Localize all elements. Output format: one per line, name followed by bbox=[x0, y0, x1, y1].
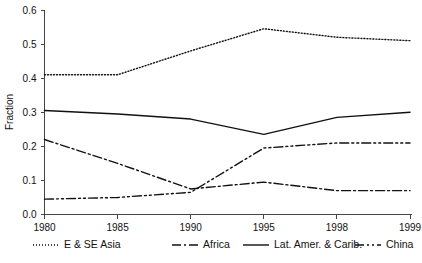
x-tick-label: 1990 bbox=[180, 222, 203, 233]
x-tick-label: 1999 bbox=[399, 222, 422, 233]
series-line-0 bbox=[45, 29, 411, 75]
x-tick-label: 1980 bbox=[33, 222, 56, 233]
x-tick-label: 1995 bbox=[253, 222, 276, 233]
y-tick-label: 0.3 bbox=[23, 107, 37, 118]
chart-container: 0.00.10.20.30.40.50.6 Fraction 198019851… bbox=[0, 0, 422, 263]
legend-label-2: Lat. Amer. & Carib. bbox=[274, 238, 362, 250]
y-tick-label: 0.4 bbox=[23, 73, 37, 84]
line-chart: 0.00.10.20.30.40.50.6 Fraction 198019851… bbox=[0, 0, 422, 263]
y-tick-label: 0.0 bbox=[23, 209, 37, 220]
y-tick-label: 0.6 bbox=[23, 5, 37, 16]
y-axis-title: Fraction bbox=[4, 94, 15, 130]
y-axis-ticks: 0.00.10.20.30.40.50.6 bbox=[23, 5, 45, 221]
x-tick-label: 1998 bbox=[326, 222, 349, 233]
series-line-2 bbox=[45, 111, 411, 135]
y-axis: 0.00.10.20.30.40.50.6 Fraction bbox=[4, 5, 45, 221]
x-tick-label: 1985 bbox=[106, 222, 129, 233]
y-tick-label: 0.5 bbox=[23, 39, 37, 50]
y-tick-label: 0.1 bbox=[23, 175, 37, 186]
x-axis-ticks: 198019851990199519981999 bbox=[33, 215, 421, 233]
chart-legend: E & SE AsiaAfricaLat. Amer. & Carib.Chin… bbox=[33, 238, 414, 250]
legend-label-0: E & SE Asia bbox=[64, 238, 121, 250]
y-tick-label: 0.2 bbox=[23, 141, 37, 152]
legend-label-1: Africa bbox=[203, 238, 230, 250]
series-lines bbox=[45, 29, 411, 199]
x-axis: 198019851990199519981999 bbox=[33, 215, 421, 233]
legend-label-3: China bbox=[386, 238, 414, 250]
series-line-1 bbox=[45, 140, 411, 191]
